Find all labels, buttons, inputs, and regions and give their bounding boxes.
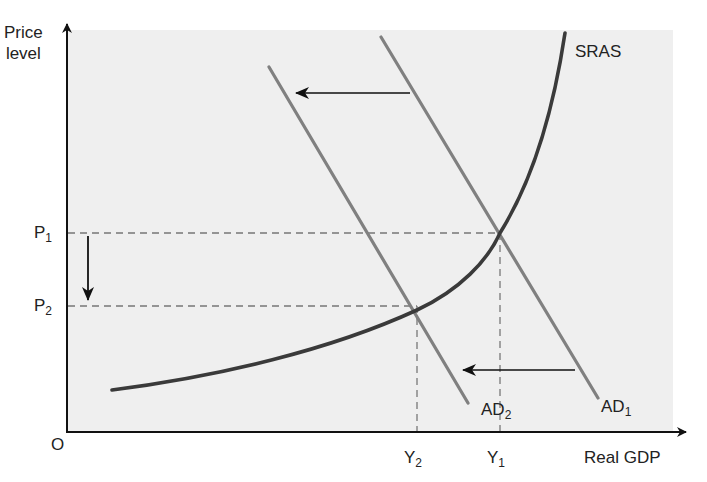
ad1-line — [381, 37, 598, 398]
origin-label: O — [51, 436, 64, 453]
p2-tick-label: P2 — [34, 297, 52, 314]
y-axis-label-line2: level — [4, 43, 43, 64]
p1-tick-label: P1 — [34, 224, 52, 241]
ad2-label: AD2 — [481, 401, 511, 418]
y-axis-label: Price level — [4, 22, 43, 64]
y1-tick-label: Y1 — [487, 449, 505, 466]
dashed-guides — [68, 233, 500, 432]
y2-tick-label: Y2 — [404, 449, 422, 466]
x-axis-label: Real GDP — [584, 449, 661, 466]
sras-label: SRAS — [575, 43, 621, 60]
y-axis-label-line1: Price — [4, 22, 43, 43]
sras-curve — [112, 33, 565, 390]
ad1-label: AD1 — [601, 398, 631, 415]
